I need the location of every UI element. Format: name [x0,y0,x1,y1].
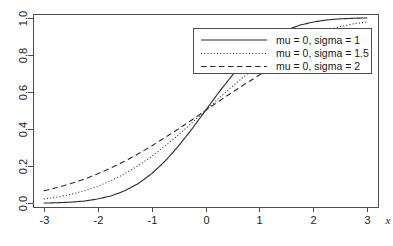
y-tick-label: 1.0 [17,11,29,26]
x-tick-label: -3 [40,214,50,226]
x-tick-label: 3 [364,214,370,226]
x-tick-label: -1 [148,214,158,226]
normal-cdf-chart: -3-2-10123 0.00.20.40.60.81.0 x mu = 0, … [0,0,393,246]
chart-page: -3-2-10123 0.00.20.40.60.81.0 x mu = 0, … [0,0,393,246]
legend-label-2: mu = 0, sigma = 2 [276,60,360,72]
legend-label-1: mu = 0, sigma = 1.5 [276,47,369,59]
y-tick-label: 0.6 [17,85,29,100]
x-tick-label: 1 [256,214,262,226]
y-tick-label: 0.4 [17,122,29,137]
legend-label-0: mu = 0, sigma = 1 [276,34,360,46]
x-axis-title-label: x [385,214,391,226]
x-tick-label: 2 [310,214,316,226]
x-axis-title: x [385,214,391,226]
y-tick-label: 0.2 [17,159,29,174]
chart-legend[interactable]: mu = 0, sigma = 1mu = 0, sigma = 1.5mu =… [194,29,372,74]
x-tick-label: -2 [94,214,104,226]
y-tick-label: 0.8 [17,48,29,63]
y-tick-label: 0.0 [17,196,29,211]
x-tick-label: 0 [203,214,209,226]
